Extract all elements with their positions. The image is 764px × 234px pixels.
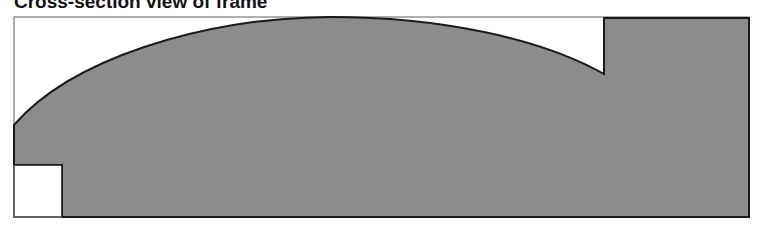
bottom-left-notch — [14, 165, 62, 217]
cross-section-diagram — [0, 0, 764, 234]
